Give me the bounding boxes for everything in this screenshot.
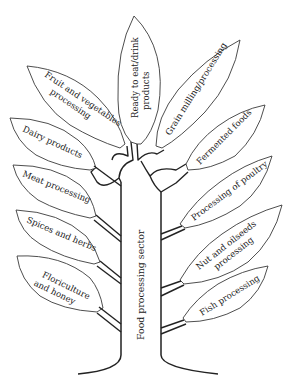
stem-poultry: [161, 226, 182, 234]
leaf-ready-to-eat: Ready to eat/drink products: [118, 16, 160, 144]
stem-floriculture: [99, 307, 121, 324]
food-processing-tree-diagram: Food processing sector Ready to eat/drin…: [0, 0, 294, 383]
leaf-floriculture: Floriculture and honey: [17, 256, 121, 332]
trunk-label: Food processing sector: [135, 229, 146, 340]
crown-forks: [91, 142, 188, 192]
stem-nut-oilseeds: [161, 281, 181, 288]
